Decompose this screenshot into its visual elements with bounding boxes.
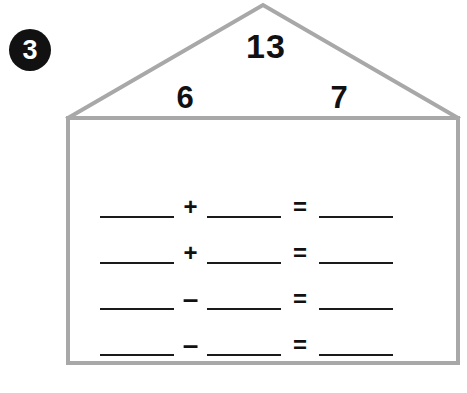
answer-blank-left[interactable] <box>100 285 174 310</box>
answer-blank-result[interactable] <box>319 331 393 356</box>
equals-sign: = <box>281 287 319 310</box>
roof-addend-left-number: 6 <box>158 82 212 113</box>
equation-row: – = <box>100 310 440 356</box>
answer-blank-right[interactable] <box>207 331 281 356</box>
roof-addend-right-number: 7 <box>312 82 366 113</box>
answer-blank-left[interactable] <box>100 331 174 356</box>
answer-blank-result[interactable] <box>319 239 393 264</box>
answer-blank-left[interactable] <box>100 193 174 218</box>
fact-family-house-worksheet: 3 13 6 7 + = + = – = <box>0 0 467 393</box>
operator-minus: – <box>174 287 207 310</box>
answer-blank-right[interactable] <box>207 239 281 264</box>
equation-row: + = <box>100 218 440 264</box>
answer-blank-result[interactable] <box>319 193 393 218</box>
equation-list: + = + = – = – = <box>100 172 440 356</box>
answer-blank-right[interactable] <box>207 285 281 310</box>
answer-blank-result[interactable] <box>319 285 393 310</box>
operator-plus: + <box>174 241 207 264</box>
operator-minus: – <box>174 333 207 356</box>
answer-blank-right[interactable] <box>207 193 281 218</box>
equation-row: – = <box>100 264 440 310</box>
answer-blank-left[interactable] <box>100 239 174 264</box>
roof-sum-number: 13 <box>236 29 296 63</box>
equals-sign: = <box>281 241 319 264</box>
equals-sign: = <box>281 333 319 356</box>
equals-sign: = <box>281 195 319 218</box>
operator-plus: + <box>174 195 207 218</box>
equation-row: + = <box>100 172 440 218</box>
